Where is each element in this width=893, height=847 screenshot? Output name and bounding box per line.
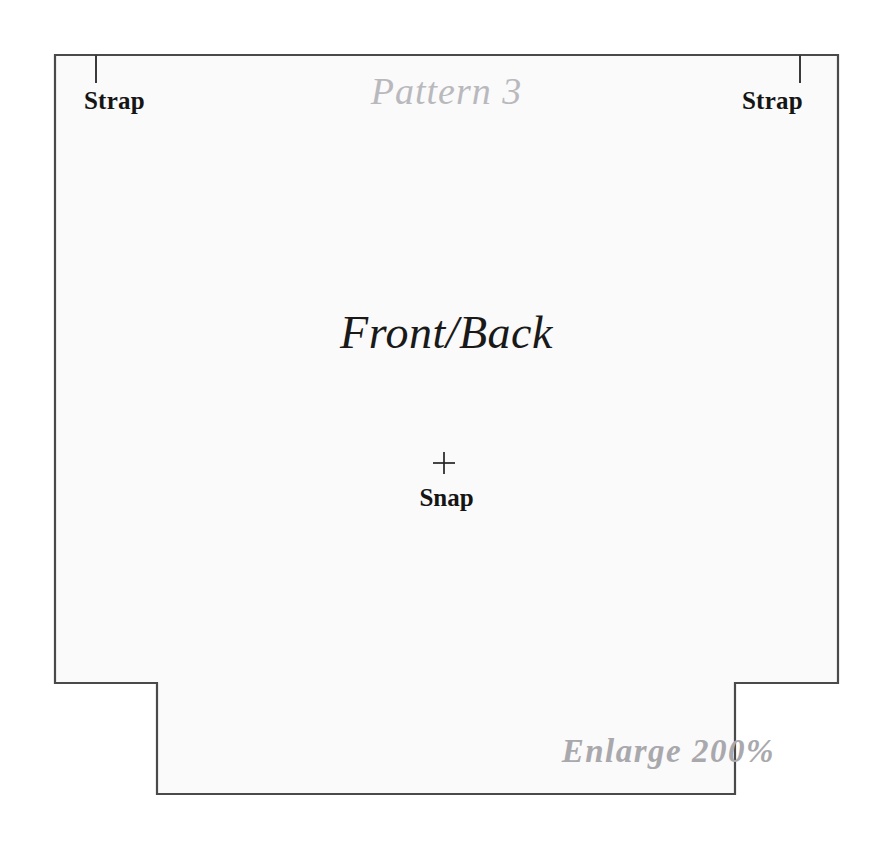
enlarge-instruction: Enlarge 200% (0, 735, 893, 768)
front-back-piece-label: Front/Back (0, 310, 893, 356)
snap-label: Snap (0, 485, 893, 510)
pattern-outline-svg (0, 0, 893, 847)
pattern-title: Pattern 3 (0, 72, 893, 110)
pattern-piece-outline (55, 55, 838, 794)
pattern-sheet: Strap Strap Pattern 3 Front/Back Snap En… (0, 0, 893, 847)
